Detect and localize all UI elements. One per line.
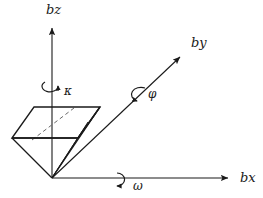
axis-by: [52, 57, 180, 178]
edge-rightfront-to-backright: [78, 107, 100, 138]
kappa-arc-path: [42, 82, 58, 92]
rotation-arc-kappa: [42, 82, 58, 92]
angle-label-omega: ω: [133, 179, 143, 193]
axis-label-bx: bx: [240, 170, 256, 185]
body-wedge: [12, 107, 100, 178]
phi-arc-path: [131, 87, 145, 101]
angle-label-kappa: κ: [63, 84, 72, 98]
coordinate-system-diagram: bz by bx κ φ ω: [0, 0, 263, 198]
diagram-canvas: bz by bx κ φ ω: [0, 0, 263, 198]
omega-arc-path: [117, 173, 125, 186]
rotation-arc-phi: [131, 87, 145, 101]
angle-label-phi: φ: [148, 87, 157, 101]
hidden-diagonal-edge: [32, 108, 74, 140]
axis-by-line: [52, 57, 180, 178]
axis-label-by: by: [191, 35, 207, 50]
rotation-arc-omega: [117, 173, 125, 186]
axis-label-bz: bz: [46, 2, 61, 17]
edge-leftvertex-to-apex: [12, 138, 52, 178]
top-face-outline: [12, 107, 100, 138]
